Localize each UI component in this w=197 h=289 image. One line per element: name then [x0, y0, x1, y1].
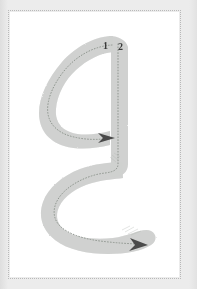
screenshot-stage: 1 2 [0, 0, 197, 289]
stroke-order-label-1: 1 [103, 41, 108, 51]
writing-panel: 1 2 [10, 12, 179, 277]
glyph-soft-edges [39, 36, 156, 254]
stroke-order-label-2: 2 [118, 42, 123, 52]
stroke-order-glyph-canvas [10, 12, 179, 277]
